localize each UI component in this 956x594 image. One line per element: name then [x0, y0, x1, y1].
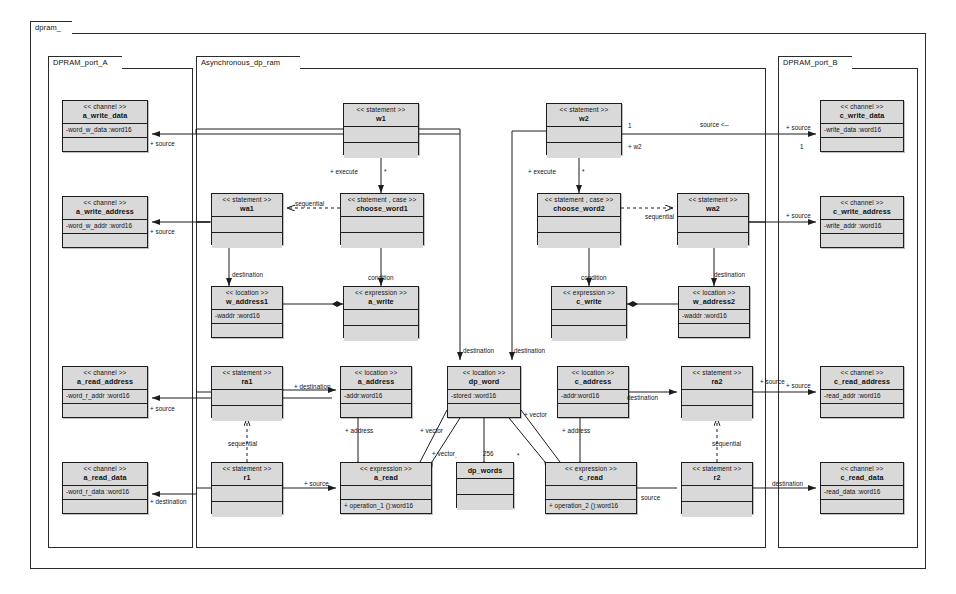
class-attribute-row: -word_w_data :word16 — [66, 125, 144, 134]
class-header: << channel >>c_write_address — [821, 197, 903, 220]
package-tab-pkg-port-a: DPRAM_port_A — [48, 56, 122, 69]
uml-class-c_write_expr[interactable]: << expression >>c_write — [551, 286, 627, 338]
class-stereotype: << statement >> — [684, 369, 750, 377]
class-header: << expression >>c_read — [546, 463, 636, 486]
edge-label-l-dest-dpw-l: destination — [463, 347, 494, 355]
class-attributes — [341, 217, 423, 233]
class-header: << channel >>c_write_data — [821, 101, 903, 124]
uml-class-dp_word[interactable]: << location >>dp_word-stored :word16 — [447, 366, 521, 418]
class-name: dp_word — [450, 377, 518, 386]
class-operations — [457, 495, 513, 510]
uml-class-dp_words[interactable]: dp_words — [456, 462, 514, 508]
class-operations — [341, 233, 423, 248]
class-operation-row: + operation_1 ():word16 — [344, 501, 428, 510]
uml-class-c_write_data[interactable]: << channel >>c_write_data-write_data :wo… — [820, 100, 904, 152]
uml-class-a_write_address[interactable]: << channel >>a_write_address-word_w_addr… — [62, 196, 148, 248]
class-operations: + operation_1 ():word16 — [341, 500, 431, 513]
uml-class-c_read_address[interactable]: << channel >>c_read_address-read_addr :w… — [820, 366, 904, 418]
class-name: c_read — [548, 473, 634, 482]
edge-label-l-cond-2: condition — [581, 274, 607, 282]
class-operation-row: + operation_2 ():word16 — [549, 501, 633, 510]
uml-class-a_read_expr[interactable]: << expression >>a_read+ operation_1 ():w… — [340, 462, 432, 514]
class-stereotype: << statement >> — [680, 196, 746, 204]
uml-class-c_write_address[interactable]: << channel >>c_write_address-write_addr … — [820, 196, 904, 248]
uml-class-ra2[interactable]: << statement >>ra2 — [681, 366, 753, 418]
uml-class-a_read_data[interactable]: << channel >>a_read_data-word_r_data :wo… — [62, 462, 148, 514]
class-attribute-row: -read_addr :word16 — [824, 391, 900, 400]
class-attribute-row: -stored :word16 — [451, 391, 517, 400]
package-tab-pkg-dpram: dpram_ — [30, 21, 72, 34]
uml-class-choose_word1[interactable]: << statement , case >>choose_word1 — [340, 193, 424, 245]
uml-class-r2[interactable]: << statement >>r2 — [681, 462, 753, 514]
class-attributes — [538, 217, 620, 233]
edge-label-l-seq-r2: sequential — [712, 440, 741, 448]
edge-label-l-cond-1: condition — [368, 274, 394, 282]
uml-class-c_read_data[interactable]: << channel >>c_read_data-read_data :word… — [820, 462, 904, 514]
edge-label-l-src-cwd: + source — [786, 124, 811, 132]
class-header: << channel >>a_read_address — [63, 367, 147, 390]
class-name: choose_word2 — [540, 204, 618, 213]
class-name: wa2 — [680, 204, 746, 213]
edge-label-l-dest-dpw-r: destination — [514, 347, 545, 355]
edge-label-l-source-arrow: source <-- — [700, 121, 729, 129]
uml-class-a_write_data[interactable]: << channel >>a_write_data-word_w_data :w… — [62, 100, 148, 152]
class-stereotype: << statement >> — [684, 465, 750, 473]
class-attributes: -write_data :word16 — [821, 124, 903, 138]
class-attribute-row: -waddr :word16 — [215, 311, 279, 320]
class-header: << channel >>a_write_data — [63, 101, 147, 124]
class-stereotype: << channel >> — [823, 199, 901, 207]
uml-class-wa1[interactable]: << statement >>wa1 — [211, 193, 283, 245]
class-attributes — [546, 486, 636, 500]
class-stereotype: << channel >> — [65, 103, 145, 111]
uml-class-a_read_address[interactable]: << channel >>a_read_address-word_r_addr … — [62, 366, 148, 418]
class-header: << statement >>wa1 — [212, 194, 282, 217]
uml-class-a_address[interactable]: << location >>a_address-addr:word16 — [340, 366, 412, 418]
edge-label-l-src-cwa: + source — [786, 212, 811, 220]
uml-class-choose_word2[interactable]: << statement , case >>choose_word2 — [537, 193, 621, 245]
class-name: ra2 — [684, 377, 750, 386]
class-stereotype: << expression >> — [343, 465, 429, 473]
edge-label-l-dot-r: * — [517, 452, 520, 460]
class-operations — [821, 500, 903, 513]
edge-label-l-src-ara: + source — [150, 405, 175, 413]
class-header: << location >>a_address — [341, 367, 411, 390]
class-attributes — [682, 390, 752, 406]
class-attributes: -addr:word16 — [341, 390, 411, 404]
class-operations — [448, 404, 520, 417]
uml-class-c_read_expr[interactable]: << expression >>c_read+ operation_2 ():w… — [545, 462, 637, 514]
uml-class-wa2[interactable]: << statement >>wa2 — [677, 193, 749, 245]
class-attribute-row: -word_r_data :word16 — [66, 487, 144, 496]
class-attribute-row: -write_data :word16 — [824, 125, 900, 134]
uml-class-w_address2[interactable]: << location >>w_address2-waddr :word16 — [678, 286, 750, 338]
class-attributes — [682, 486, 752, 502]
edge-label-l-src-ra2: + source — [760, 378, 785, 386]
class-name: r1 — [214, 473, 280, 482]
class-operations — [63, 500, 147, 513]
class-stereotype: << expression >> — [554, 289, 624, 297]
edge-label-l-256: 256 — [483, 450, 494, 458]
package-tab-pkg-port-b: DPRAM_port_B — [778, 56, 852, 69]
uml-class-ra1[interactable]: << statement >>ra1 — [211, 366, 283, 418]
uml-class-a_write_expr[interactable]: << expression >>a_write — [343, 286, 419, 338]
class-attributes — [678, 217, 748, 233]
uml-class-w_address1[interactable]: << location >>w_address1-waddr :word16 — [211, 286, 283, 338]
class-header: << statement >>w2 — [547, 104, 621, 127]
uml-class-w1[interactable]: << statement >>w1 — [343, 103, 419, 155]
class-attribute-row: -addr:word16 — [344, 391, 408, 400]
class-attributes: -word_w_addr :word16 — [63, 220, 147, 234]
uml-class-r1[interactable]: << statement >>r1 — [211, 462, 283, 514]
edge-label-l-one-cwd: 1 — [800, 143, 804, 151]
uml-class-c_address[interactable]: << location >>c_address-addr:word16 — [557, 366, 629, 418]
uml-class-w2[interactable]: << statement >>w2 — [546, 103, 622, 155]
class-name: c_read_data — [823, 473, 901, 482]
edge-label-l-addr-c: + address — [562, 427, 590, 435]
class-operations — [212, 406, 282, 421]
class-header: << location >>dp_word — [448, 367, 520, 390]
class-stereotype: << statement >> — [214, 196, 280, 204]
class-name: a_write_data — [65, 111, 145, 120]
class-stereotype: << channel >> — [823, 103, 901, 111]
class-attributes: -write_addr :word16 — [821, 220, 903, 234]
class-operations — [558, 404, 628, 417]
class-name: a_write — [346, 297, 416, 306]
class-header: << statement >>ra1 — [212, 367, 282, 390]
